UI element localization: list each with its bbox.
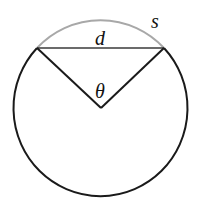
label-theta: θ [95,80,105,102]
circle-diagram: s d θ [0,0,199,203]
label-s: s [151,10,159,32]
label-d: d [95,27,106,49]
circle-major-arc [13,48,187,196]
radius-right [101,48,164,108]
radius-left [37,48,101,108]
